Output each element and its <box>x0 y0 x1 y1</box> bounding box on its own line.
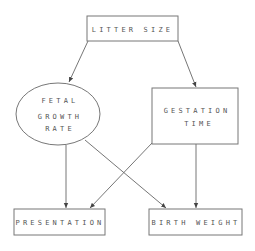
node-gestation-time: GESTATION TIME <box>152 88 238 144</box>
edge-litter-to-fetal <box>69 41 88 82</box>
gestation-time-line-1: GESTATION <box>164 107 231 115</box>
presentation-label: PRESENTATION <box>16 219 105 227</box>
fetal-growth-rate-line-1: FETAL <box>41 97 78 105</box>
node-presentation: PRESENTATION <box>14 209 105 235</box>
diagram-canvas: LITTER SIZE FETAL GROWTH RATE GESTATION … <box>0 0 255 251</box>
birth-weight-label: BIRTH WEIGHT <box>152 219 241 227</box>
fetal-growth-rate-line-3: RATE <box>45 125 75 133</box>
node-birth-weight: BIRTH WEIGHT <box>149 209 242 235</box>
gestation-time-box <box>152 88 238 144</box>
litter-size-label: LITTER SIZE <box>92 26 174 34</box>
node-litter-size: LITTER SIZE <box>87 16 178 41</box>
edge-gestation-to-presentation <box>90 143 152 208</box>
node-fetal-growth-rate: FETAL GROWTH RATE <box>16 83 100 145</box>
fetal-growth-rate-line-2: GROWTH <box>38 113 83 121</box>
gestation-time-line-2: TIME <box>184 120 214 128</box>
edge-fetal-to-birthweight <box>85 140 166 208</box>
edge-litter-to-gestation <box>178 41 196 87</box>
